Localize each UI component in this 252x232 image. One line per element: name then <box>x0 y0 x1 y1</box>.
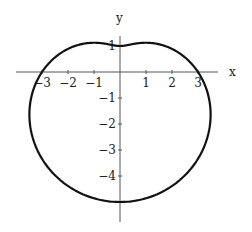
y-tick-label: −3 <box>98 143 116 157</box>
x-tick-label: −1 <box>85 76 103 90</box>
y-tick-label: −1 <box>98 91 116 105</box>
x-tick-label: −2 <box>59 76 77 90</box>
y-ticks: 1−1−2−3−4 <box>98 39 122 183</box>
x-ticks: −3−2−1123 <box>33 70 202 90</box>
y-tick-label: −2 <box>98 117 116 131</box>
x-tick-label: 1 <box>142 76 150 90</box>
y-axis-label: y <box>115 11 123 25</box>
y-tick-label: −4 <box>98 169 116 183</box>
x-tick-label: 2 <box>168 76 176 90</box>
polar-plot: −3−2−1123 1−1−2−3−4 x y <box>0 0 252 232</box>
x-axis-label: x <box>229 65 236 79</box>
